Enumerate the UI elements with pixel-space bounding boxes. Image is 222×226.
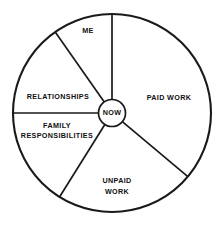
sector-label-me: ME <box>82 26 93 35</box>
spoke-unpaidwork-paidwork <box>122 122 188 177</box>
sector-label-paid-work: PAID WORK <box>147 93 192 102</box>
sector-label-family-responsibilities: FAMILY <box>43 121 71 130</box>
wheel-svg-canvas: MERELATIONSHIPSFAMILYRESPONSIBILITIESUNP… <box>0 0 222 226</box>
life-domains-wheel-diagram: MERELATIONSHIPSFAMILYRESPONSIBILITIESUNP… <box>0 0 222 226</box>
hub-label-now: NOW <box>103 108 122 117</box>
sector-label-family-responsibilities: RESPONSIBILITIES <box>21 131 93 140</box>
sector-label-unpaid-work: WORK <box>105 187 130 196</box>
sector-label-relationships: RELATIONSHIPS <box>27 92 89 101</box>
sector-label-unpaid-work: UNPAID <box>102 176 131 185</box>
